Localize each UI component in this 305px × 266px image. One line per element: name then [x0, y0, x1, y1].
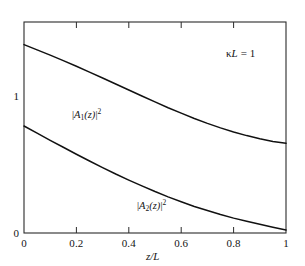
length-symbol: L [232, 47, 238, 59]
curve-1-argument: (z) [84, 109, 95, 120]
x-tick-label-0.8: 0.8 [227, 238, 241, 249]
curve-2-exponent: 2 [162, 198, 166, 207]
x-tick-label-1: 1 [283, 238, 289, 249]
bottom-axis-ticks [76, 227, 233, 233]
x-tick-label-0.2: 0.2 [69, 238, 83, 249]
curve-1-label: |A1(z)|2 [72, 110, 101, 121]
curve-1-subscript: 1 [81, 113, 85, 122]
y-tick-label-1: 1 [6, 91, 19, 102]
curve-1-symbol: A [74, 109, 80, 120]
x-tick-label-0: 0 [21, 238, 27, 249]
x-tick-label-0.6: 0.6 [174, 238, 188, 249]
x-tick-label-0.4: 0.4 [122, 238, 136, 249]
y-tick-label-0: 0 [6, 228, 19, 239]
figure-root: 1 0 0 0.2 0.4 0.6 0.8 1 z/L κL= 1 |A1(z)… [0, 0, 305, 266]
top-axis-ticks [76, 22, 233, 28]
x-axis-title-text: z/L [146, 250, 159, 262]
curve-1-exponent: 2 [97, 107, 101, 116]
curve-a2-squared [24, 126, 286, 230]
plot-canvas [0, 0, 305, 266]
curve-2-subscript: 2 [146, 204, 150, 213]
annotation-value: = 1 [241, 47, 255, 59]
curve-a1-squared [24, 45, 286, 144]
curve-2-label: |A2(z)|2 [137, 201, 166, 212]
kappa-l-annotation: κL= 1 [226, 48, 255, 59]
x-axis-title: z/L [146, 251, 159, 262]
curve-2-symbol: A [139, 200, 145, 211]
curve-2-argument: (z) [149, 200, 160, 211]
